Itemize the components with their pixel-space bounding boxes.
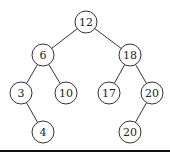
tree-node-3: 3 [10, 82, 32, 104]
node-label: 10 [59, 87, 73, 100]
tree-node-6: 6 [32, 44, 54, 66]
node-label: 17 [102, 87, 116, 100]
tree-node-20-bottom: 20 [119, 121, 141, 143]
node-label: 6 [40, 49, 47, 62]
tree-node-20-right: 20 [141, 82, 163, 104]
tree-node-17: 17 [98, 82, 120, 104]
node-label: 18 [123, 49, 137, 62]
node-label: 12 [79, 16, 93, 29]
node-label: 4 [40, 126, 47, 139]
tree-node-18: 18 [119, 44, 141, 66]
node-label: 20 [145, 87, 159, 100]
node-label: 3 [18, 87, 25, 100]
tree-node-12: 12 [75, 11, 97, 33]
edges [21, 22, 152, 132]
tree-node-10: 10 [55, 82, 77, 104]
node-label: 20 [123, 126, 137, 139]
tree-node-4: 4 [32, 121, 54, 143]
binary-tree-diagram: 12 6 18 3 10 17 20 4 20 [0, 0, 170, 153]
